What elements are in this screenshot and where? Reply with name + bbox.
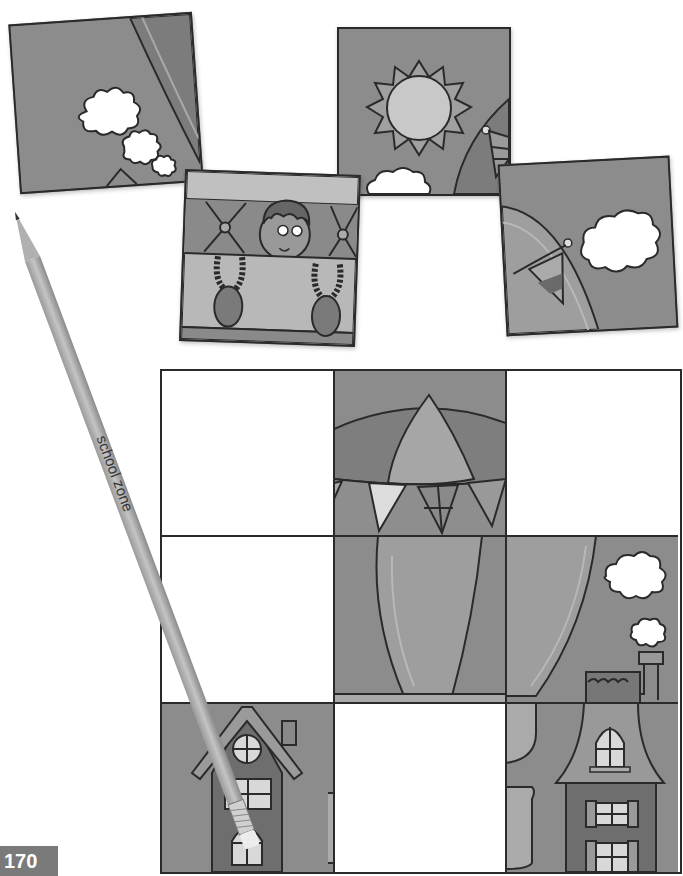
grid-cell-empty[interactable] [506, 371, 678, 536]
balloon-side-art [506, 536, 678, 703]
grid-cell-empty[interactable] [334, 703, 506, 872]
puzzle-grid [160, 369, 682, 874]
grid-cell-empty[interactable] [162, 371, 334, 536]
pencil-brand-text: school zone [93, 433, 137, 514]
puzzle-piece-sun[interactable] [337, 27, 511, 196]
grid-cell-empty[interactable] [162, 536, 334, 703]
clouds-piece-art [10, 14, 201, 192]
sun-piece-art [339, 29, 509, 194]
grid-line [162, 702, 678, 704]
cloud-right-piece-art [500, 158, 677, 335]
grid-cell-house-right [506, 703, 678, 872]
grid-cell-balloon-body [334, 536, 506, 703]
grid-line [333, 371, 335, 872]
grid-cell-balloon-top [334, 371, 506, 536]
grid-line [162, 535, 678, 537]
puzzle-piece-boy[interactable] [179, 169, 361, 347]
grid-cell-house-left [162, 703, 334, 872]
grid-line [505, 371, 507, 872]
balloon-top-art [334, 371, 506, 536]
puzzle-piece-clouds[interactable] [8, 12, 203, 194]
puzzle-piece-cloud-right[interactable] [498, 156, 679, 337]
balloon-body-art [334, 536, 506, 703]
boy-piece-art [181, 171, 359, 345]
house-left-art [162, 703, 334, 872]
grid-cell-balloon-side [506, 536, 678, 703]
house-right-art [506, 703, 678, 872]
page-number: 170 [0, 846, 58, 876]
chimney-icon [639, 652, 663, 664]
